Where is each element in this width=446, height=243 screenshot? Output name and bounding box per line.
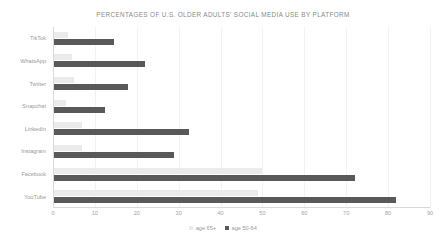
x-axis-tick-40: 40 bbox=[217, 210, 223, 216]
chart-legend: age 65+age 50-64 bbox=[0, 225, 446, 231]
bar-instagram-age-65-plus bbox=[53, 145, 82, 151]
bar-rows bbox=[53, 27, 430, 208]
bar-group-instagram bbox=[53, 140, 430, 163]
x-axis-tick-80: 80 bbox=[385, 210, 391, 216]
bar-youtube-age-65-plus bbox=[53, 190, 258, 196]
y-axis-category-labels: TikTokWhatsAppTwitterSnapchatLinkedInIns… bbox=[0, 27, 50, 208]
y-axis-label-tiktok: TikTok bbox=[30, 35, 46, 41]
y-axis-label-whatsapp: WhatsApp bbox=[20, 58, 46, 64]
bar-group-snapchat bbox=[53, 95, 430, 118]
legend-swatch-icon bbox=[225, 226, 229, 230]
x-axis-tick-20: 20 bbox=[134, 210, 140, 216]
bar-tiktok-age-65-plus bbox=[53, 32, 68, 38]
x-axis-tick-30: 30 bbox=[176, 210, 182, 216]
bar-snapchat-age-50-64 bbox=[53, 107, 105, 113]
bar-group-linkedin bbox=[53, 118, 430, 141]
bar-group-twitter bbox=[53, 72, 430, 95]
bar-group-whatsapp bbox=[53, 50, 430, 73]
y-axis-label-instagram: Instagram bbox=[21, 148, 46, 154]
bar-instagram-age-50-64 bbox=[53, 152, 174, 158]
bar-twitter-age-65-plus bbox=[53, 77, 74, 83]
bar-tiktok-age-50-64 bbox=[53, 39, 114, 45]
legend-label: age 50-64 bbox=[232, 225, 257, 231]
x-axis-tick-labels: 0102030405060708090 bbox=[53, 210, 430, 220]
y-axis-label-youtube: YouTube bbox=[24, 194, 46, 200]
legend-label: age 65+ bbox=[196, 225, 216, 231]
bar-linkedin-age-50-64 bbox=[53, 129, 189, 135]
bar-facebook-age-65-plus bbox=[53, 168, 262, 174]
x-axis-tick-10: 10 bbox=[92, 210, 98, 216]
bar-chart: PERCENTAGES OF U.S. OLDER ADULTS' SOCIAL… bbox=[0, 0, 446, 243]
legend-entry-age-65-[interactable]: age 65+ bbox=[189, 225, 216, 231]
bar-facebook-age-50-64 bbox=[53, 175, 355, 181]
bar-snapchat-age-65-plus bbox=[53, 100, 66, 106]
x-axis-tick-90: 90 bbox=[427, 210, 433, 216]
y-axis-label-twitter: Twitter bbox=[30, 81, 46, 87]
bar-whatsapp-age-65-plus bbox=[53, 54, 72, 60]
bar-twitter-age-50-64 bbox=[53, 84, 128, 90]
x-axis-tick-0: 0 bbox=[51, 210, 54, 216]
x-axis-tick-50: 50 bbox=[259, 210, 265, 216]
y-axis-label-snapchat: Snapchat bbox=[22, 103, 46, 109]
gridline-90 bbox=[430, 27, 431, 208]
bar-group-youtube bbox=[53, 185, 430, 208]
chart-title: PERCENTAGES OF U.S. OLDER ADULTS' SOCIAL… bbox=[0, 11, 446, 18]
legend-swatch-icon bbox=[189, 226, 193, 230]
bar-group-facebook bbox=[53, 163, 430, 186]
y-axis-line bbox=[53, 27, 54, 208]
bar-whatsapp-age-50-64 bbox=[53, 61, 145, 67]
bar-linkedin-age-65-plus bbox=[53, 122, 82, 128]
x-axis-line bbox=[53, 207, 430, 208]
bar-youtube-age-50-64 bbox=[53, 197, 396, 203]
bar-group-tiktok bbox=[53, 27, 430, 50]
x-axis-tick-60: 60 bbox=[301, 210, 307, 216]
y-axis-label-facebook: Facebook bbox=[21, 171, 46, 177]
plot-area bbox=[53, 27, 430, 208]
legend-entry-age-50-64[interactable]: age 50-64 bbox=[225, 225, 257, 231]
y-axis-label-linkedin: LinkedIn bbox=[25, 126, 46, 132]
x-axis-tick-70: 70 bbox=[343, 210, 349, 216]
